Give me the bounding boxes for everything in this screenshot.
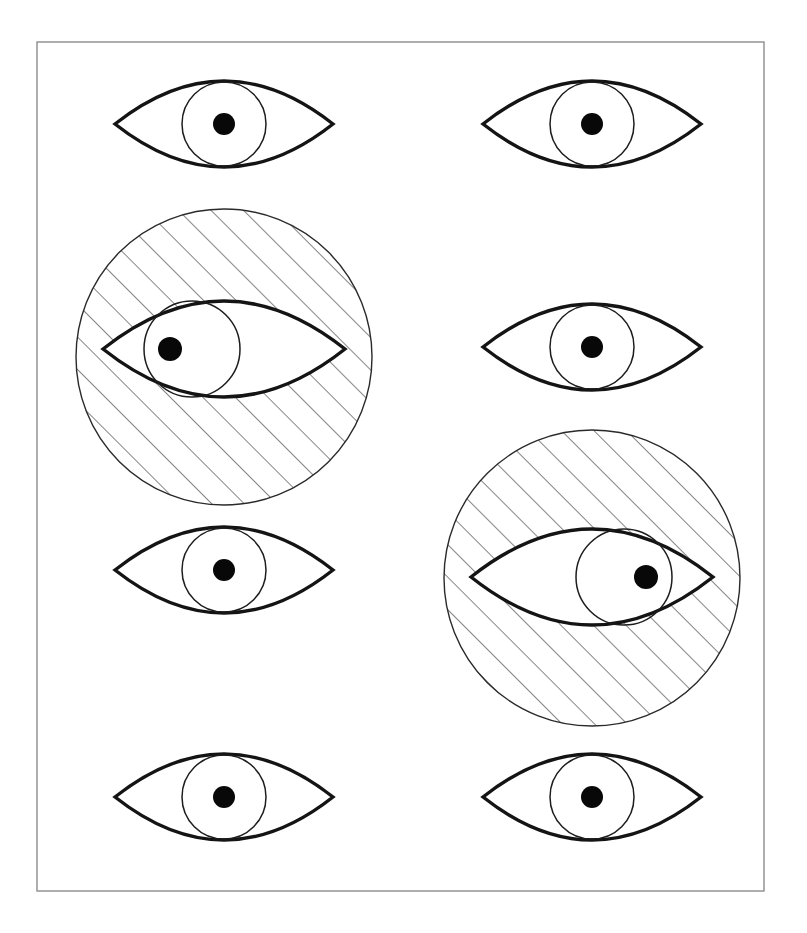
pupil-dot	[634, 565, 658, 589]
eye-figure-eye-r3c1	[115, 527, 333, 613]
eye-figure-eye-r1c1	[115, 81, 333, 167]
eye-figure-eye-r4c1	[115, 754, 333, 840]
pupil-dot	[213, 786, 235, 808]
eyes-layer	[76, 81, 740, 840]
pupil-dot	[581, 113, 603, 135]
pupil-dot	[158, 337, 182, 361]
pupil-dot	[213, 559, 235, 581]
pupil-dot	[581, 336, 603, 358]
eye-figure-eye-r1c2	[483, 81, 701, 167]
eye-figure-eye-r2c1	[76, 209, 372, 505]
eye-figure-eye-r3c2	[444, 430, 740, 726]
eye-figure-eye-r2c2	[483, 304, 701, 390]
pupil-dot	[213, 113, 235, 135]
pupil-dot	[581, 786, 603, 808]
eye-figure-eye-r4c2	[483, 754, 701, 840]
figure-root	[0, 0, 807, 933]
eye-figure-canvas	[0, 0, 807, 933]
